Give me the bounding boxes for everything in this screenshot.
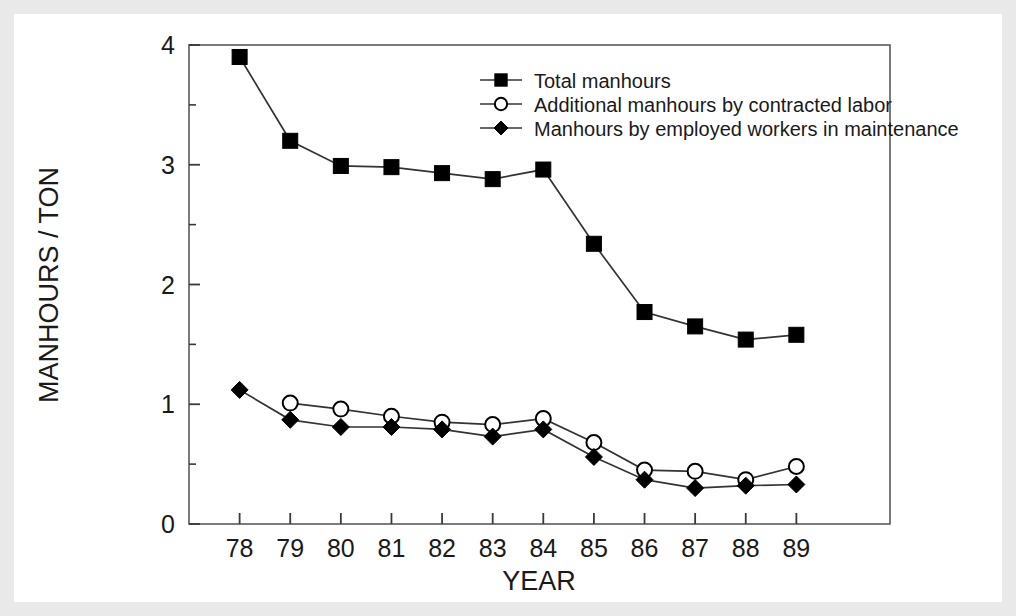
y-tick-label: 0 (161, 510, 175, 538)
x-tick-label: 86 (631, 534, 659, 562)
marker-filled-square (536, 162, 551, 177)
marker-filled-square (688, 319, 703, 334)
y-tick-label: 1 (161, 390, 175, 418)
x-axis-tick-labels: 787980818283848586878889 (226, 534, 811, 562)
marker-open-circle (495, 98, 507, 110)
marker-filled-square (283, 133, 298, 148)
marker-filled-diamond (282, 411, 299, 428)
y-tick-label: 2 (161, 271, 175, 299)
marker-filled-square (435, 166, 450, 181)
x-tick-label: 82 (428, 534, 456, 562)
marker-open-circle (688, 464, 703, 479)
legend-label: Additional manhours by contracted labor (534, 94, 892, 116)
marker-filled-diamond (332, 419, 349, 436)
x-tick-label: 81 (378, 534, 406, 562)
x-tick-label: 87 (681, 534, 709, 562)
data-series (231, 381, 805, 496)
x-axis-ticks (240, 513, 797, 524)
marker-filled-diamond (788, 476, 805, 493)
x-axis-title: YEAR (502, 566, 576, 596)
marker-filled-square (789, 327, 804, 342)
data-series (283, 396, 804, 488)
x-tick-label: 83 (479, 534, 507, 562)
legend-item: Manhours by employed workers in maintena… (480, 118, 959, 140)
marker-filled-square (333, 158, 348, 173)
marker-filled-diamond (585, 448, 602, 465)
marker-filled-square (384, 160, 399, 175)
marker-open-circle (333, 402, 348, 417)
x-tick-label: 85 (580, 534, 608, 562)
legend-label: Total manhours (534, 70, 671, 92)
plot-frame (189, 45, 890, 524)
y-axis-ticks (189, 45, 200, 524)
marker-filled-diamond (494, 121, 508, 135)
marker-open-circle (789, 459, 804, 474)
y-axis-title: MANHOURS / TON (34, 167, 64, 403)
chart-legend: Total manhoursAdditional manhours by con… (480, 70, 959, 140)
x-tick-label: 78 (226, 534, 254, 562)
y-tick-label: 3 (161, 151, 175, 179)
y-axis-tick-labels: 01234 (161, 31, 175, 538)
x-tick-label: 84 (529, 534, 557, 562)
line-chart: 01234 787980818283848586878889 Total man… (0, 0, 1016, 616)
legend-label: Manhours by employed workers in maintena… (534, 118, 959, 140)
marker-filled-diamond (231, 381, 248, 398)
marker-open-circle (283, 396, 298, 411)
marker-filled-square (586, 236, 601, 251)
marker-filled-square (485, 172, 500, 187)
marker-filled-diamond (687, 480, 704, 497)
x-tick-label: 79 (276, 534, 304, 562)
x-tick-label: 80 (327, 534, 355, 562)
legend-item: Additional manhours by contracted labor (480, 94, 892, 116)
legend-item: Total manhours (480, 70, 671, 92)
marker-filled-square (232, 49, 247, 64)
figure-root: 01234 787980818283848586878889 Total man… (0, 0, 1016, 616)
x-tick-label: 88 (732, 534, 760, 562)
marker-filled-square (738, 332, 753, 347)
x-tick-label: 89 (782, 534, 810, 562)
data-series-layer (231, 49, 805, 496)
marker-filled-square (637, 305, 652, 320)
marker-filled-square (495, 74, 507, 86)
y-tick-label: 4 (161, 31, 175, 59)
